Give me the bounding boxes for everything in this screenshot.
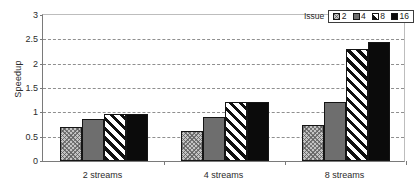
x-tick-mark [285, 161, 286, 165]
y-axis-tick-label: 2.5 [25, 34, 38, 44]
bar-group [181, 15, 269, 161]
y-tick-mark [40, 88, 43, 89]
x-axis-label-4-streams: 4 streams [163, 170, 284, 180]
y-axis-tick-label: 0 [33, 156, 38, 166]
legend-entry-2[interactable]: 2 [333, 12, 346, 21]
bar[interactable] [368, 42, 390, 161]
legend: Issue 24816 [304, 10, 414, 23]
y-tick-mark [40, 39, 43, 40]
bar-group [60, 15, 148, 161]
legend-entry-16[interactable]: 16 [391, 12, 409, 21]
x-tick-mark [164, 161, 165, 165]
y-tick-mark [40, 161, 43, 162]
bar[interactable] [247, 102, 269, 161]
y-axis-title: Speedup [13, 39, 23, 119]
y-tick-mark [40, 64, 43, 65]
legend-swatch-icon [372, 13, 379, 20]
legend-title: Issue [304, 11, 324, 21]
bar[interactable] [181, 131, 203, 161]
x-axis-label-8-streams: 8 streams [284, 170, 405, 180]
x-tick-mark [406, 161, 407, 165]
plot-area: 00.511.522.53 [42, 14, 405, 162]
y-tick-mark [40, 112, 43, 113]
bar[interactable] [60, 127, 82, 161]
y-axis-tick-label: 1.5 [25, 83, 38, 93]
bar[interactable] [126, 114, 148, 161]
legend-box: 24816 [328, 10, 414, 23]
legend-entry-4[interactable]: 4 [353, 12, 366, 21]
bar[interactable] [104, 114, 126, 161]
legend-swatch-icon [353, 13, 360, 20]
legend-swatch-icon [333, 13, 340, 20]
bar-group [302, 15, 390, 161]
legend-label: 4 [361, 12, 366, 21]
legend-label: 8 [380, 12, 385, 21]
y-axis-tick-label: 3 [33, 10, 38, 20]
bar[interactable] [346, 49, 368, 161]
bar[interactable] [302, 125, 324, 161]
legend-entry-8[interactable]: 8 [372, 12, 385, 21]
bar[interactable] [203, 117, 225, 161]
legend-swatch-icon [391, 13, 398, 20]
bar[interactable] [324, 102, 346, 161]
legend-label: 16 [400, 12, 409, 21]
x-axis-label-2-streams: 2 streams [42, 170, 163, 180]
y-tick-mark [40, 15, 43, 16]
bar[interactable] [225, 102, 247, 161]
y-axis-tick-label: 0.5 [25, 132, 38, 142]
bar[interactable] [82, 119, 104, 161]
y-tick-mark [40, 137, 43, 138]
legend-label: 2 [342, 12, 347, 21]
y-axis-tick-label: 1 [33, 107, 38, 117]
bar-chart: Speedup 00.511.522.53 2 streams4 streams… [0, 0, 420, 193]
y-axis-tick-label: 2 [33, 59, 38, 69]
